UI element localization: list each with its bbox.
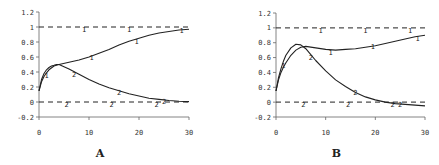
series-2-marker: 2 xyxy=(72,71,76,79)
series-1-marker: 1 xyxy=(415,35,419,43)
series-1-marker: 1 xyxy=(127,26,131,34)
series-1-marker: 1 xyxy=(281,62,285,70)
y-tick-label: 0.6 xyxy=(21,54,34,62)
panel-label: A xyxy=(95,147,105,160)
y-tick-label: 0.8 xyxy=(21,39,34,47)
series-1-marker: 1 xyxy=(319,27,323,35)
y-tick-label: 0 xyxy=(267,99,271,107)
y-tick-label: 0.2 xyxy=(258,84,271,92)
panel-label: B xyxy=(332,147,341,160)
series-2-marker: 2 xyxy=(162,98,166,106)
series-1-line xyxy=(39,29,189,91)
series-2-marker: 2 xyxy=(64,101,68,109)
y-tick-label: 1 xyxy=(30,24,34,32)
y-tick-label: 0.2 xyxy=(21,84,34,92)
x-tick-label: 0 xyxy=(274,129,278,137)
y-tick-label: 1.2 xyxy=(21,9,34,17)
series-1-marker: 1 xyxy=(179,27,183,35)
series-2-marker: 2 xyxy=(353,89,357,97)
series-2-marker: 2 xyxy=(109,101,113,109)
series-1-marker: 1 xyxy=(363,27,367,35)
series-1-line xyxy=(276,35,425,91)
series-2-marker: 2 xyxy=(154,101,158,109)
x-tick-label: 30 xyxy=(421,129,429,137)
y-tick-label: 0.8 xyxy=(258,39,271,47)
y-tick-label: -0.2 xyxy=(254,114,271,122)
series-2-marker: 2 xyxy=(346,101,350,109)
series-2-line xyxy=(39,65,189,102)
chart-panel-b: -0.200.20.40.60.811.20102030111111122222… xyxy=(254,10,429,161)
x-tick-label: 0 xyxy=(37,129,41,137)
y-tick-label: 0.6 xyxy=(258,54,271,62)
series-2-marker: 2 xyxy=(301,101,305,109)
series-2-line xyxy=(276,44,425,106)
series-2-marker: 2 xyxy=(398,101,402,109)
series-2-marker: 2 xyxy=(117,89,121,97)
y-tick-label: -0.2 xyxy=(17,114,34,122)
y-tick-label: 0 xyxy=(30,99,34,107)
x-tick-label: 20 xyxy=(371,129,379,137)
x-tick-label: 30 xyxy=(185,129,193,137)
chart-panel-a: -0.200.20.40.60.811.20102030111111222222… xyxy=(17,9,193,161)
y-tick-label: 1.2 xyxy=(258,10,271,18)
y-tick-label: 0.4 xyxy=(21,69,34,77)
x-tick-label: 10 xyxy=(85,129,93,137)
series-2-marker: 2 xyxy=(309,54,313,62)
series-1-marker: 1 xyxy=(329,49,333,57)
x-tick-label: 20 xyxy=(135,129,143,137)
series-1-marker: 1 xyxy=(408,27,412,35)
y-tick-label: 0.4 xyxy=(258,69,271,77)
series-1-marker: 1 xyxy=(89,54,93,62)
series-2-marker: 2 xyxy=(391,101,395,109)
series-1-marker: 1 xyxy=(82,26,86,34)
y-tick-label: 1 xyxy=(267,24,271,32)
figure: -0.200.20.40.60.811.20102030111111222222… xyxy=(0,0,439,165)
series-1-marker: 1 xyxy=(371,43,375,51)
x-tick-label: 10 xyxy=(321,129,329,137)
series-1-marker: 1 xyxy=(134,38,138,46)
series-1-marker: 1 xyxy=(44,72,48,80)
